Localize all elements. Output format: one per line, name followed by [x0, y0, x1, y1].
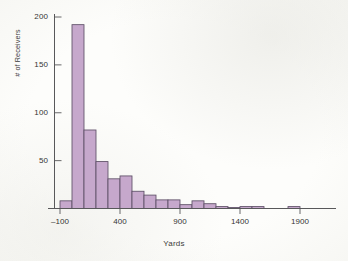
- histogram-bar: [180, 205, 192, 209]
- x-tick-label: 900: [163, 217, 197, 226]
- histogram-bar: [84, 130, 96, 209]
- histogram-bar: [192, 201, 204, 209]
- x-tick-label: 1400: [223, 217, 257, 226]
- histogram-bar: [108, 179, 120, 209]
- histogram-bar: [132, 191, 144, 208]
- histogram-bar: [72, 25, 84, 209]
- histogram-bar: [96, 162, 108, 209]
- histogram-bar: [204, 204, 216, 209]
- x-tick-label: 1900: [283, 217, 317, 226]
- histogram-bar: [144, 195, 156, 208]
- y-axis-title: # of Receivers: [13, 8, 22, 98]
- x-tick-label: –100: [43, 217, 77, 226]
- x-axis-title: Yards: [0, 239, 348, 248]
- bar-series: [60, 25, 300, 209]
- histogram-bar: [168, 200, 180, 209]
- histogram-bar: [120, 176, 132, 209]
- histogram-bar: [156, 200, 168, 209]
- figure-canvas: 50100150200 –10040090014001900 # of Rece…: [0, 0, 348, 261]
- y-tick-label: 150: [22, 60, 48, 69]
- histogram-bar: [60, 201, 72, 209]
- y-tick-label: 50: [22, 156, 48, 165]
- y-tick-label: 200: [22, 12, 48, 21]
- y-tick-label: 100: [22, 108, 48, 117]
- x-tick-label: 400: [103, 217, 137, 226]
